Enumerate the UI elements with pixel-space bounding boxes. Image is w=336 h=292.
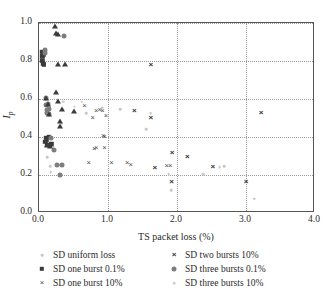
gridline-horizontal [39,23,313,24]
data-point [57,173,62,178]
data-point [46,156,49,159]
data-point [55,98,61,103]
y-tick-label: 0.8 [0,55,32,65]
plot-area [38,22,314,212]
data-point [55,31,61,36]
x-axis-label: TS packet loss (%) [38,231,314,242]
x-tick-label: 4.0 [294,215,334,225]
data-point [258,110,264,116]
y-axis-tick-labels: 0.00.20.40.60.81.0 [0,0,36,292]
data-point [167,163,173,169]
y-tick-label: 1.0 [0,17,32,27]
legend-marker-filled-circle-icon [172,267,177,272]
legend-label: SD uniform loss [53,249,115,262]
data-point [128,162,134,168]
data-point [108,160,114,166]
data-point [44,142,50,147]
data-point [74,105,77,108]
data-point [93,145,99,151]
gridline-horizontal [39,137,313,138]
data-point [59,162,64,167]
legend-marker-x-bold-icon [171,252,177,258]
x-tick-label: 2.0 [156,215,196,225]
legend-marker-filled-square-icon [40,267,44,271]
data-point [43,96,49,101]
data-point [62,101,65,104]
legend-marker-x-thin-icon [39,280,45,286]
data-point [131,108,137,114]
data-point [167,173,170,176]
data-point [49,171,52,174]
data-point [218,166,221,169]
data-point [59,107,65,112]
x-tick-label: 0.0 [18,215,58,225]
gridline-horizontal [39,61,313,62]
data-point [169,150,175,156]
data-point [119,108,122,111]
data-point [46,112,52,117]
data-point [152,165,158,171]
data-point [42,63,46,67]
chart-legend: SD uniform lossSD one burst 0.1%SD one b… [34,249,334,291]
data-point [71,109,77,114]
data-point [168,179,174,185]
data-point [210,164,216,170]
legend-label: SD one burst 10% [53,277,122,290]
data-point [52,23,58,28]
legend-marker-small-faint-dot-icon [173,282,176,285]
data-point [202,173,205,176]
x-tick-label: 1.0 [87,215,127,225]
scatter-chart-figure: 0.00.20.40.60.81.0 Ip 0.01.02.03.04.0 TS… [0,0,336,292]
data-point [45,101,51,106]
data-point [223,165,226,168]
data-point [145,128,148,131]
legend-label: SD two bursts 10% [185,249,259,262]
data-point [49,135,54,140]
data-point [184,154,190,160]
legend-label: SD one burst 0.1% [53,263,125,276]
data-point [243,179,249,185]
data-point [61,33,66,38]
legend-label: SD three bursts 10% [185,277,263,290]
data-point [85,112,88,115]
data-point [253,197,256,200]
data-point [148,115,154,121]
data-point [82,103,88,109]
legend-label: SD three bursts 0.1% [185,263,266,276]
data-point [53,90,59,95]
data-point [42,51,47,56]
gridline-vertical [177,23,178,211]
data-point [102,145,108,151]
legend-marker-small-faint-dot-icon [41,254,44,257]
data-point [102,134,108,140]
data-point [170,189,173,192]
data-point [103,113,109,119]
data-point [57,123,63,128]
y-axis-label: Ip [1,93,15,137]
data-point [90,115,96,121]
data-point [52,148,57,153]
data-point [86,160,92,166]
gridline-horizontal [39,175,313,176]
x-tick-label: 3.0 [225,215,265,225]
data-point [49,165,52,168]
data-point [55,61,61,66]
data-point [148,62,154,68]
data-point [62,62,68,67]
y-tick-label: 0.2 [0,169,32,179]
data-point [46,106,51,111]
